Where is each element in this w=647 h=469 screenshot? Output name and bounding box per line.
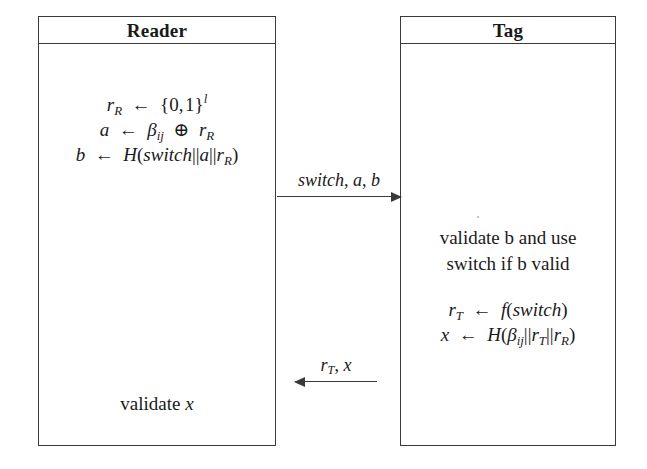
party-title-reader: Reader bbox=[127, 21, 187, 40]
tag-formula-line-2: x ← H(βij||rT||rR) bbox=[401, 322, 615, 347]
message-tag-to-reader: rT, x bbox=[295, 355, 377, 389]
tag-computation-step-1: validate b and use switch if b valid bbox=[401, 225, 615, 277]
message-label-tag-to-reader: rT, x bbox=[295, 355, 377, 375]
party-header-reader: Reader bbox=[39, 17, 275, 44]
tag-formula-line-1: rT ← f(switch) bbox=[401, 297, 615, 322]
arrow-shaft bbox=[277, 196, 401, 197]
message-label-reader-to-tag: switch, a, b bbox=[277, 170, 401, 190]
reader-formula-line-1: rR ← {0, 1}l bbox=[39, 92, 275, 117]
reader-computation-step-1: rR ← {0, 1}l a ← βij ⊕ rR b ← H(switch||… bbox=[39, 92, 275, 167]
party-header-tag: Tag bbox=[401, 17, 615, 44]
reader-validate-line: validate x bbox=[39, 391, 275, 417]
party-body-reader: rR ← {0, 1}l a ← βij ⊕ rR b ← H(switch||… bbox=[39, 44, 275, 445]
tag-validate-line-1: validate b and use bbox=[401, 225, 615, 251]
tag-computation-step-2: rT ← f(switch) x ← H(βij||rT||rR) bbox=[401, 297, 615, 347]
message-reader-to-tag: switch, a, b bbox=[277, 170, 401, 204]
party-body-tag: validate b and use switch if b valid rT … bbox=[401, 44, 615, 445]
reader-formula-line-2: a ← βij ⊕ rR bbox=[39, 117, 275, 142]
scan-artifact-speck bbox=[477, 216, 479, 218]
arrow-head-left-icon bbox=[294, 377, 305, 387]
reader-formula-line-3: b ← H(switch||a||rR) bbox=[39, 142, 275, 167]
arrow-reader-to-tag bbox=[277, 196, 401, 198]
tag-validate-line-2: switch if b valid bbox=[401, 251, 615, 277]
arrow-shaft bbox=[295, 381, 377, 382]
arrow-tag-to-reader bbox=[295, 381, 377, 383]
arrow-head-right-icon bbox=[391, 192, 402, 202]
party-box-reader: Reader rR ← {0, 1}l a ← βij ⊕ rR b bbox=[38, 16, 276, 446]
protocol-diagram-canvas: Reader rR ← {0, 1}l a ← βij ⊕ rR b bbox=[0, 0, 647, 469]
reader-computation-step-2: validate x bbox=[39, 391, 275, 417]
party-box-tag: Tag validate b and use switch if b valid… bbox=[400, 16, 616, 446]
party-title-tag: Tag bbox=[493, 21, 524, 40]
